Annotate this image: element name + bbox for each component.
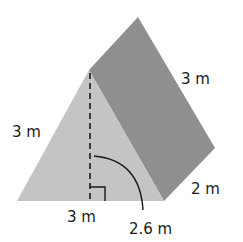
label-base: 3 m	[67, 208, 96, 226]
label-depth: 2 m	[191, 180, 220, 198]
prism-diagram: 3 m 3 m 3 m 2 m 2.6 m	[0, 0, 243, 242]
label-height: 2.6 m	[129, 220, 172, 238]
label-slant-edge: 3 m	[181, 70, 210, 88]
label-left-edge: 3 m	[12, 123, 41, 141]
